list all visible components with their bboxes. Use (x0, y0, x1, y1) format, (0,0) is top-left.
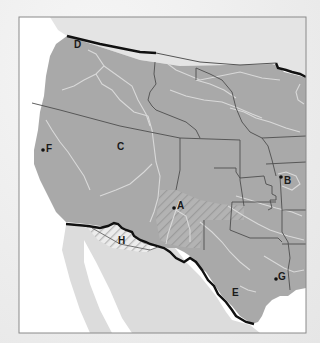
dot-f (41, 148, 45, 152)
dot-b (279, 175, 283, 179)
map-canvas: D F C B A H G E (0, 0, 320, 343)
point-d[interactable]: D (74, 39, 81, 50)
point-e[interactable]: E (232, 287, 239, 298)
label-a: A (177, 200, 184, 211)
map-page: D F C B A H G E (0, 0, 320, 343)
point-c[interactable]: C (117, 141, 124, 152)
point-h[interactable]: H (118, 235, 125, 246)
label-e: E (232, 287, 239, 298)
label-f: F (46, 143, 52, 154)
label-g: G (278, 271, 286, 282)
dot-a (172, 206, 176, 210)
label-h: H (118, 235, 125, 246)
label-d: D (74, 39, 81, 50)
label-c: C (117, 141, 124, 152)
label-b: B (284, 175, 291, 186)
